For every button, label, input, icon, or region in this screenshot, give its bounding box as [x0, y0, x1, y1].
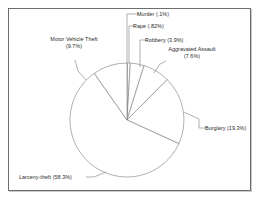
slice-label-burglary: Burglary (19.3%) — [205, 125, 246, 132]
pie-slice-group — [70, 63, 184, 177]
slice-label-aggravated-assault-name: Aggravated Assault — [164, 46, 220, 53]
leader-line-larceny-theft — [86, 172, 106, 177]
leader-line-motor-vehicle-theft — [75, 60, 86, 80]
slice-label-aggravated-assault: Aggravated Assault (7.6%) — [164, 46, 220, 59]
pie-chart-screenshot: Murder (.1%) Rape (.82%) Robbery (3.9%) … — [0, 0, 264, 203]
slice-label-motor-vehicle-theft: Motor Vehicle Theft (9.7%) — [43, 36, 105, 49]
slice-label-rape: Rape (.82%) — [133, 23, 164, 30]
leader-line-burglary — [184, 112, 206, 128]
pie-chart-graphic — [0, 0, 264, 203]
slice-label-motor-vehicle-theft-name: Motor Vehicle Theft — [43, 36, 105, 43]
slice-label-aggravated-assault-value: (7.6%) — [164, 53, 220, 60]
leader-line-rape — [129, 26, 135, 63]
slice-label-robbery: Robbery (3.9%) — [145, 37, 183, 44]
slice-label-larceny-theft: Larceny-theft (58.3%) — [19, 174, 72, 181]
leader-line-robbery — [140, 40, 147, 67]
slice-label-murder: Murder (.1%) — [137, 11, 169, 18]
slice-label-motor-vehicle-theft-value: (9.7%) — [43, 43, 105, 50]
